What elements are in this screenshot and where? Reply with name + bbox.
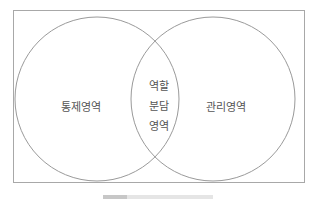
intersection-line: 영역 <box>142 117 176 137</box>
intersection-line: 분담 <box>142 97 176 117</box>
intersection-line: 역할 <box>142 77 176 97</box>
figure-caption <box>103 195 213 199</box>
left-set-label: 통제영역 <box>61 98 101 114</box>
right-set-label: 관리영역 <box>206 98 246 114</box>
intersection-label: 역할 분담 영역 <box>142 77 176 137</box>
